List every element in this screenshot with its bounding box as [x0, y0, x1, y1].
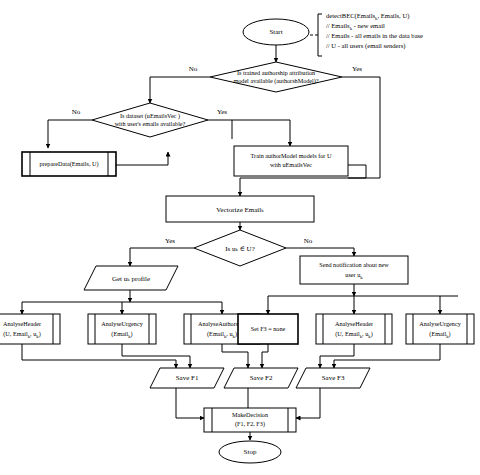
conn-model-no [150, 77, 210, 103]
conn-f1-to-decision [176, 388, 204, 418]
analyse-urgency-left-line-1: AnalyseUrgency [101, 320, 143, 327]
decision-user-yes-label: Yes [165, 237, 175, 245]
analyse-header-right-shape [316, 314, 392, 344]
save-f2-label: Save F2 [250, 374, 273, 382]
conn-to-vectorize [240, 178, 366, 196]
analyse-urgency-right-shape [406, 314, 474, 344]
decision-model-no-label: No [189, 65, 198, 73]
make-decision-line-2: (F1, F2, F3) [235, 420, 265, 428]
conn-setf3-to-f2 [262, 344, 268, 368]
annotation-text: detectBEC(Emailsk, Emails, U) // Emailsk… [326, 12, 423, 50]
decision-user-label: Is uk ∈ U? [225, 244, 255, 252]
node-analyse-urgency-left[interactable]: AnalyseUrgency (Emailk) [88, 314, 156, 344]
decision-model-line-1: Is trained authorship attribution [237, 69, 315, 76]
node-send-notification[interactable]: Send notification about new user uk [300, 256, 408, 284]
conn-user-yes [130, 248, 194, 266]
conn-user-no [286, 248, 354, 256]
node-decision-model[interactable]: Is trained authorship attribution model … [189, 62, 363, 92]
conn-header-right-to-f3 [320, 344, 354, 368]
vectorize-label: Vectorize Emailk [216, 205, 264, 213]
node-analyse-header-right[interactable]: AnalyseHeader (U, Emailk, uk) [316, 314, 392, 344]
decision-user-no-label: No [304, 237, 313, 245]
node-decision-dataset[interactable]: Is dataset (uEmailsVec ) with user's ema… [72, 103, 228, 137]
train-model-line-1: Train authorModel models for U [251, 152, 332, 159]
node-save-f1[interactable]: Save F1 [150, 368, 224, 388]
start-label: Start [269, 28, 282, 36]
set-f3-label: Set F3 = none [251, 325, 286, 332]
node-set-f3[interactable]: Set F3 = none [238, 314, 298, 344]
train-model-line-2: with uEmailsVec [270, 161, 312, 168]
node-make-decision[interactable]: MakeDecision (F1, F2, F3) [204, 408, 296, 432]
analyse-header-left-shape [0, 314, 60, 344]
conn-urgency-left-to-f1 [122, 344, 190, 368]
decision-dataset-yes-label: Yes [217, 108, 227, 116]
decision-dataset-line-1: Is dataset (uEmailsVec ) [120, 112, 180, 120]
make-decision-line-1: MakeDecision [232, 411, 268, 418]
decision-model-line-2: model available (authorshModel)? [233, 77, 318, 85]
prepare-data-label: prepareData(Emails, U) [39, 160, 98, 168]
conn-authorship-to-f2 [222, 344, 248, 368]
conn-train-out [348, 165, 366, 178]
decision-dataset-line-2: with user's emails available? [115, 120, 186, 127]
stop-label: Stop [244, 448, 257, 456]
node-train-model[interactable]: Train authorModel models for U with uEma… [234, 146, 348, 176]
flowchart-canvas: detectBEC(Emailsk, Emails, U) // Emailsk… [0, 0, 480, 475]
node-vectorize[interactable]: Vectorize Emailk [166, 196, 314, 222]
conn-f3-to-decision [296, 388, 320, 418]
get-profile-label: Get uk profile [112, 274, 150, 282]
send-notification-line-1: Send notification about new [319, 261, 389, 268]
conn-dataset-no [48, 120, 92, 148]
analyse-header-left-line-1: AnalyseHeader [3, 320, 41, 327]
conn-dataset-yes-to-train [232, 120, 290, 146]
node-save-f3[interactable]: Save F3 [296, 368, 370, 388]
node-stop[interactable]: Stop [219, 441, 281, 463]
save-f1-label: Save F1 [176, 374, 199, 382]
decision-dataset-no-label: No [72, 108, 81, 116]
analyse-urgency-right-line-1: AnalyseUrgency [419, 320, 461, 327]
node-save-f2[interactable]: Save F2 [224, 368, 298, 388]
node-prepare-data[interactable]: prepareData(Emails, U) [22, 152, 116, 176]
analyse-urgency-left-shape [88, 314, 156, 344]
analyse-header-right-line-1: AnalyseHeader [335, 320, 373, 327]
save-f3-label: Save F3 [322, 374, 345, 382]
decision-model-yes-label: Yes [352, 65, 362, 73]
annotation-line-3: // Emails - all emails in the data base [326, 32, 423, 39]
node-analyse-header-left[interactable]: AnalyseHeader (U, Emailk, uk) [0, 314, 60, 344]
annotation-line-2: // Emailsk - new email [326, 22, 385, 31]
node-get-profile[interactable]: Get uk profile [84, 266, 178, 290]
send-notification-shape [300, 256, 408, 284]
node-start[interactable]: Start [243, 19, 309, 45]
conn-prepare-to-train [116, 152, 168, 165]
node-analyse-urgency-right[interactable]: AnalyseUrgency (Emailk) [406, 314, 474, 344]
annotation-line-4: // U - all users (email senders) [326, 42, 405, 50]
bracket-shape [318, 14, 322, 56]
conn-dataset-yes-seg1 [208, 120, 232, 139]
annotation-line-1: detectBEC(Emailsk, Emails, U) [326, 12, 409, 21]
